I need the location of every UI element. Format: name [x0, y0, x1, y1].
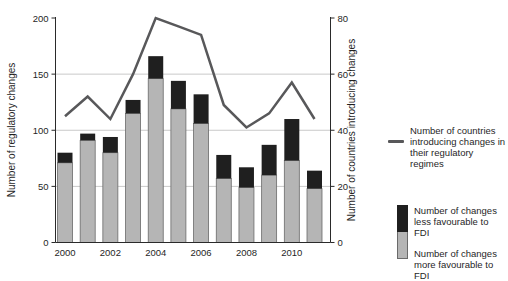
bar-less-favourable-2005 — [171, 81, 186, 109]
left-tick-label-150: 150 — [33, 69, 49, 80]
bar-more-favourable-2001 — [80, 140, 95, 242]
x-tick-label-2002: 2002 — [100, 247, 121, 258]
bar-less-favourable-2001 — [80, 134, 95, 141]
bar-more-favourable-2009 — [262, 175, 277, 242]
right-tick-label-0: 0 — [338, 237, 343, 248]
x-tick-label-2006: 2006 — [191, 247, 212, 258]
legend-label-more-favourable: Number of changes more favourable to FDI — [414, 248, 506, 281]
bar-less-favourable-2011 — [307, 171, 322, 189]
bar-more-favourable-2005 — [171, 109, 186, 243]
bar-more-favourable-2008 — [239, 187, 254, 242]
legend-line-label-row1: Number of countries — [410, 125, 506, 136]
legend-item-bar-series: Number of changes less favourable to FDI… — [397, 205, 506, 281]
bar-less-favourable-2010 — [284, 119, 299, 161]
legend-line-label-row3: their regulatory regimes — [410, 147, 506, 169]
left-tick-label-50: 50 — [38, 181, 49, 192]
x-tick-label-2000: 2000 — [54, 247, 75, 258]
bar-less-favourable-2007 — [216, 155, 231, 179]
bar-less-favourable-2008 — [239, 167, 254, 187]
bar-more-favourable-2003 — [126, 113, 141, 242]
countries-line-series — [65, 18, 315, 127]
left-tick-label-200: 200 — [33, 13, 49, 24]
left-tick-label-100: 100 — [33, 125, 49, 136]
bar-more-favourable-2000 — [58, 163, 73, 243]
legend-less-label-row1: Number of changes — [414, 205, 506, 216]
line-series-swatch — [388, 140, 404, 143]
bar-less-favourable-2006 — [194, 94, 209, 123]
legend-bar-labels: Number of changes less favourable to FDI… — [414, 205, 506, 281]
x-tick-label-2004: 2004 — [145, 247, 166, 258]
x-tick-label-2008: 2008 — [236, 247, 257, 258]
stacked-bar-swatch — [397, 205, 408, 281]
bar-more-favourable-2011 — [307, 189, 322, 243]
bar-more-favourable-2004 — [148, 79, 163, 243]
legend-item-countries-line: Number of countries introducing changes … — [388, 125, 506, 169]
bar-more-favourable-2010 — [284, 161, 299, 243]
legend-label-countries-line: Number of countries introducing changes … — [410, 125, 506, 169]
legend-more-label-row1: Number of changes — [414, 248, 506, 259]
bar-less-favourable-2004 — [148, 56, 163, 78]
more-favourable-swatch — [397, 232, 408, 259]
bar-more-favourable-2002 — [103, 153, 118, 243]
bar-less-favourable-2000 — [58, 153, 73, 163]
bar-less-favourable-2002 — [103, 137, 118, 153]
bar-more-favourable-2007 — [216, 179, 231, 243]
left-axis-title: Number of regulatory changes — [6, 18, 18, 242]
left-tick-label-0: 0 — [43, 237, 48, 248]
less-favourable-swatch — [397, 205, 408, 232]
right-axis-title: Number of countries introducing changes — [346, 18, 358, 242]
legend-label-less-favourable: Number of changes less favourable to FDI — [414, 205, 506, 238]
legend: Number of countries introducing changes … — [388, 125, 506, 281]
x-tick-label-2010: 2010 — [281, 247, 302, 258]
legend-more-label-row2: more favourable to FDI — [414, 259, 506, 281]
bar-less-favourable-2003 — [126, 100, 141, 113]
legend-less-label-row2: less favourable to FDI — [414, 216, 506, 238]
bar-less-favourable-2009 — [262, 145, 277, 175]
legend-line-label-row2: introducing changes in — [410, 136, 506, 147]
bar-more-favourable-2006 — [194, 124, 209, 243]
